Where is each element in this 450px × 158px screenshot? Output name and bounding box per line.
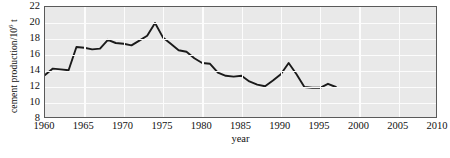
y-tick-label-18: 18: [14, 33, 40, 43]
x-tick-label-1975: 1975: [140, 119, 184, 132]
y-tick-label-12: 12: [14, 81, 40, 91]
vertical-gridline: [202, 7, 203, 117]
x-tick-label-2005: 2005: [376, 119, 420, 132]
horizontal-gridline: [45, 55, 436, 56]
y-axis-tick-labels: 810121416182022: [14, 6, 40, 118]
y-tick-label-20: 20: [14, 17, 40, 27]
vertical-gridline: [320, 7, 321, 117]
chart-figure: cement production/106 t 810121416182022 …: [0, 0, 450, 158]
horizontal-gridline: [45, 103, 436, 104]
y-tick-label-16: 16: [14, 49, 40, 59]
x-tick-label-1970: 1970: [101, 119, 145, 132]
x-tick-label-1990: 1990: [258, 119, 302, 132]
x-tick-label-1995: 1995: [297, 119, 341, 132]
plot-area: [44, 6, 437, 118]
x-axis-label: year: [44, 133, 437, 144]
y-axis-label-exponent: 6: [7, 24, 14, 28]
x-tick-label-2010: 2010: [415, 119, 450, 132]
y-tick-label-10: 10: [14, 97, 40, 107]
horizontal-gridline: [45, 71, 436, 72]
x-tick-label-1960: 1960: [22, 119, 66, 132]
vertical-gridline: [163, 7, 164, 117]
vertical-gridline: [124, 7, 125, 117]
horizontal-gridline: [45, 39, 436, 40]
horizontal-gridline: [45, 23, 436, 24]
vertical-gridline: [281, 7, 282, 117]
vertical-gridline: [399, 7, 400, 117]
vertical-gridline: [242, 7, 243, 117]
x-tick-label-2000: 2000: [336, 119, 380, 132]
vertical-gridline: [84, 7, 85, 117]
y-tick-label-22: 22: [14, 1, 40, 11]
x-tick-label-1985: 1985: [219, 119, 263, 132]
x-tick-label-1965: 1965: [61, 119, 105, 132]
horizontal-gridline: [45, 87, 436, 88]
vertical-gridline: [359, 7, 360, 117]
cropped-title-remnant: [0, 0, 450, 3]
y-tick-label-14: 14: [14, 65, 40, 75]
x-tick-label-1980: 1980: [179, 119, 223, 132]
x-axis-tick-labels: 1960196519701975198019851990199520002005…: [44, 119, 437, 133]
